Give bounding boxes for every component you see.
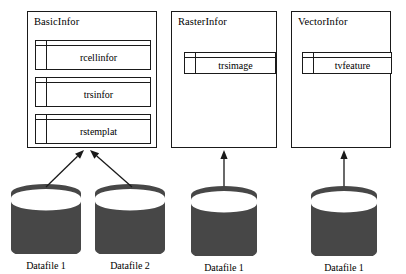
datafile-2-basic-label: Datafile 2 bbox=[93, 260, 167, 271]
datafile-1-raster-cylinder-body bbox=[191, 204, 257, 256]
datafile-2-basic-cylinder-shape bbox=[93, 182, 167, 254]
group-vectorinfor-title: VectorInfor bbox=[298, 16, 348, 27]
arrow-datafile1-to-vectorinfor bbox=[340, 150, 347, 186]
entity-rstemplat-label: rstemplat bbox=[47, 119, 150, 143]
datafile-1-vector-cylinder-cap bbox=[311, 186, 377, 200]
entity-trsimage[interactable]: trsimage bbox=[184, 52, 276, 74]
datafile-1-raster-cylinder[interactable]: Datafile 1 bbox=[189, 184, 259, 256]
diagram-canvas: BasicInforrcellinfortrsinforrstemplatRas… bbox=[0, 0, 406, 274]
datafile-2-basic-cylinder-cap bbox=[95, 184, 165, 198]
arrow-datafile2-to-basicinfor-head bbox=[90, 150, 99, 159]
datafile-1-raster-cylinder-shape bbox=[189, 184, 259, 256]
datafile-1-vector-label: Datafile 1 bbox=[309, 262, 379, 273]
datafile-1-basic-cylinder-body bbox=[11, 202, 81, 254]
entity-trsimage-label: trsimage bbox=[196, 57, 275, 73]
arrow-datafile1-to-rasterinfor-head bbox=[220, 150, 227, 159]
entity-tvfeature[interactable]: tvfeature bbox=[302, 52, 392, 74]
entity-rcellinfor-label: rcellinfor bbox=[47, 45, 150, 69]
datafile-1-vector-cylinder[interactable]: Datafile 1 bbox=[309, 184, 379, 256]
entity-rstemplat[interactable]: rstemplat bbox=[35, 114, 151, 144]
datafile-1-raster-label: Datafile 1 bbox=[189, 262, 259, 273]
datafile-2-basic-cylinder-body bbox=[95, 202, 165, 254]
group-basicinfor-title: BasicInfor bbox=[34, 16, 79, 27]
datafile-1-vector-cylinder-body bbox=[311, 204, 377, 256]
entity-trsinfor[interactable]: trsinfor bbox=[35, 77, 151, 107]
entity-tvfeature-label: tvfeature bbox=[314, 57, 391, 73]
entity-rcellinfor[interactable]: rcellinfor bbox=[35, 40, 151, 70]
group-rasterinfor-title: RasterInfor bbox=[178, 16, 227, 27]
group-vectorinfor[interactable]: VectorInfortvfeature bbox=[291, 11, 391, 148]
group-rasterinfor[interactable]: RasterInfortrsimage bbox=[171, 11, 277, 148]
datafile-1-raster-cylinder-cap bbox=[191, 186, 257, 200]
arrow-datafile1-to-vectorinfor-head bbox=[340, 150, 347, 159]
entity-trsinfor-label: trsinfor bbox=[47, 82, 150, 106]
datafile-1-basic-label: Datafile 1 bbox=[9, 260, 83, 271]
datafile-2-basic-cylinder[interactable]: Datafile 2 bbox=[93, 182, 167, 254]
datafile-1-vector-cylinder-shape bbox=[309, 184, 379, 256]
arrow-datafile1-to-basicinfor-head bbox=[75, 150, 84, 159]
arrow-datafile1-to-rasterinfor bbox=[220, 150, 227, 186]
datafile-1-basic-cylinder-shape bbox=[9, 182, 83, 254]
datafile-1-basic-cylinder[interactable]: Datafile 1 bbox=[9, 182, 83, 254]
datafile-1-basic-cylinder-cap bbox=[11, 184, 81, 198]
group-basicinfor[interactable]: BasicInforrcellinfortrsinforrstemplat bbox=[27, 11, 157, 148]
